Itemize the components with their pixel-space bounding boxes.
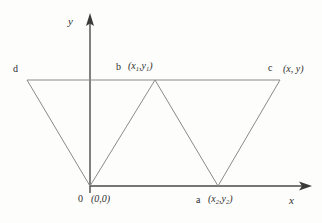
coord-b-y-subscript: 1: [146, 65, 149, 72]
coord-b-x-subscript: 1: [136, 65, 139, 72]
point-label-c: c: [268, 63, 272, 73]
geometry-figure: d b (x1,y1) c (x, y) 0 (0,0) a (x2,y2) y…: [0, 0, 322, 223]
point-coord-b: (x1,y1): [128, 61, 153, 71]
point-label-a: a: [196, 195, 200, 205]
origin-coord: (0,0): [91, 194, 110, 204]
coord-a-x-subscript: 2: [216, 198, 219, 205]
figure-canvas: [0, 0, 322, 223]
x-axis-label: x: [289, 195, 294, 206]
point-coord-a: (x2,y2): [208, 194, 233, 204]
point-coord-c: (x, y): [283, 64, 304, 74]
coord-b-paren-close: ): [149, 60, 152, 71]
y-axis-label: y: [68, 16, 73, 27]
coord-a-y-subscript: 2: [226, 198, 229, 205]
x-axis: [90, 182, 312, 191]
coord-a-paren-close: ): [229, 193, 232, 204]
point-label-b: b: [116, 62, 121, 72]
origin-label: 0: [78, 194, 83, 204]
zigzag-path-d-o-b-a-c: [27, 80, 280, 186]
y-axis: [86, 13, 94, 193]
point-label-d: d: [13, 64, 18, 74]
